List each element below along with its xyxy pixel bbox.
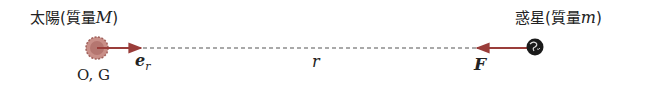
paren-close: ) [112, 9, 118, 27]
distance-label: r [312, 52, 320, 71]
sun-label: 太陽(質量M) [30, 6, 118, 27]
planet-name: 惑星 [515, 9, 545, 27]
planet-label: 惑星(質量m) [515, 6, 602, 27]
planet-icon [527, 39, 544, 56]
force-label: F [474, 54, 486, 74]
unit-vector-symbol: e [135, 51, 145, 70]
origin-label: O, G [77, 66, 110, 84]
unit-vector-subscript: r [145, 60, 150, 73]
sun-mass-symbol: M [96, 8, 112, 27]
unit-vector-label: er [135, 51, 150, 73]
paren-close: ) [596, 9, 602, 27]
planet-mass-symbol: m [581, 8, 596, 27]
sun-mass-word: 質量 [66, 9, 96, 27]
sun-name: 太陽 [30, 9, 60, 27]
planet-mass-word: 質量 [551, 9, 581, 27]
